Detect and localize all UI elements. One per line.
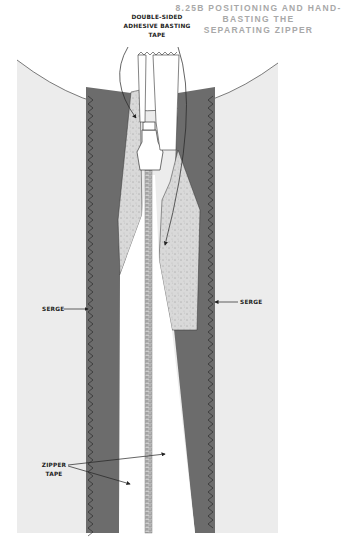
tape-zigzag	[138, 52, 177, 55]
label-serge-left: SERGE	[42, 305, 64, 314]
zipper-chain	[145, 170, 152, 533]
label-line: DOUBLE-SIDED	[112, 13, 202, 22]
label-line: TAPE	[36, 470, 72, 479]
label-zipper-tape: ZIPPER TAPE	[36, 461, 72, 479]
label-line: ADHESIVE BASTING	[112, 22, 202, 31]
label-serge-right: SERGE	[240, 298, 262, 307]
label-adhesive-tape: DOUBLE-SIDED ADHESIVE BASTING TAPE	[112, 13, 202, 40]
label-line: TAPE	[112, 31, 202, 40]
label-line: ZIPPER	[36, 461, 72, 470]
slider-top	[143, 122, 155, 130]
